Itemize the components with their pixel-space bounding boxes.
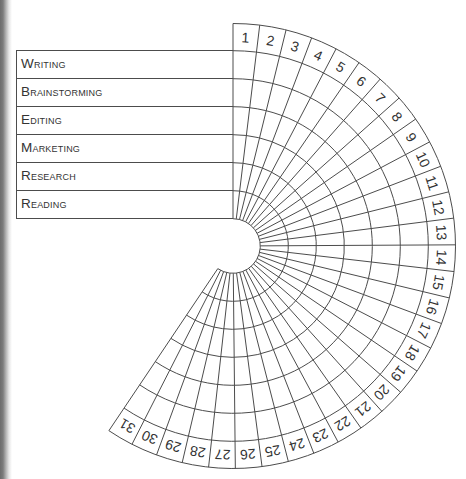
fan-ray-divider xyxy=(258,166,440,236)
day-label: 11 xyxy=(422,174,442,193)
day-label: 25 xyxy=(263,442,282,461)
fan-ray-divider xyxy=(256,261,417,371)
day-label: 16 xyxy=(423,297,443,317)
fan-ray-divider xyxy=(109,269,218,431)
day-label: 9 xyxy=(403,130,421,145)
fan-ray-divider xyxy=(237,273,262,467)
fan-ray-divider xyxy=(246,49,336,222)
fan-ray-divider xyxy=(243,271,314,453)
day-label: 14 xyxy=(433,249,450,266)
fan-ray-divider xyxy=(257,142,430,233)
day-label: 29 xyxy=(163,436,183,456)
day-label: 5 xyxy=(333,58,348,76)
category-row-research: Research xyxy=(17,162,233,190)
fan-ray-divider xyxy=(249,268,361,428)
day-label: 18 xyxy=(402,342,424,364)
fan-ray-divider xyxy=(259,192,448,240)
category-row-reading: Reading xyxy=(17,190,233,218)
category-label: Marketing xyxy=(21,140,80,155)
fan-ray-divider xyxy=(236,25,259,219)
day-label: 15 xyxy=(429,273,448,291)
fan-ray-divider xyxy=(251,79,380,225)
fan-ray-divider xyxy=(248,63,359,224)
category-label: Research xyxy=(21,168,76,183)
day-label: 19 xyxy=(387,363,409,385)
day-label: 17 xyxy=(414,320,435,341)
day-label: 8 xyxy=(388,109,406,125)
day-label: 6 xyxy=(353,73,369,91)
fan-ray-divider xyxy=(260,218,454,242)
day-label: 7 xyxy=(372,89,389,106)
day-label: 23 xyxy=(310,425,331,446)
fan-ray-divider xyxy=(246,270,338,442)
day-label: 10 xyxy=(413,149,434,170)
category-label: Writing xyxy=(21,56,66,71)
fan-ray-divider xyxy=(240,272,289,461)
day-label: 31 xyxy=(116,415,138,437)
category-label: Brainstorming xyxy=(21,84,102,99)
category-table: Writing Brainstorming Editing Marketing … xyxy=(16,50,233,219)
category-label: Reading xyxy=(21,196,67,211)
category-label: Editing xyxy=(21,112,62,127)
day-label: 13 xyxy=(433,224,450,241)
fan-ray-divider xyxy=(253,98,399,228)
fan-ray-divider xyxy=(257,259,430,349)
fan-ray-divider xyxy=(209,273,230,467)
fan-ray-divider xyxy=(251,266,382,411)
day-label: 21 xyxy=(352,398,374,420)
fan-ray-divider xyxy=(255,119,415,230)
day-label: 30 xyxy=(139,427,160,448)
category-row-brainstorming: Brainstorming xyxy=(17,78,233,106)
day-label: 22 xyxy=(332,413,354,435)
day-label: 12 xyxy=(429,198,448,216)
category-row-marketing: Marketing xyxy=(17,134,233,162)
category-row-editing: Editing xyxy=(17,106,233,134)
fan-ray-divider xyxy=(260,245,455,246)
day-label: 3 xyxy=(289,38,301,56)
category-row-writing: Writing xyxy=(17,50,233,78)
day-label: 27 xyxy=(214,446,231,463)
day-label: 28 xyxy=(188,443,206,461)
day-label: 2 xyxy=(265,32,276,49)
day-label: 1 xyxy=(241,29,250,45)
fan-ray-divider xyxy=(260,249,454,271)
day-label: 24 xyxy=(287,435,307,455)
day-label: 26 xyxy=(239,446,256,463)
fan-ray-divider xyxy=(233,273,235,468)
day-label: 4 xyxy=(312,46,326,64)
day-label: 20 xyxy=(371,381,393,403)
